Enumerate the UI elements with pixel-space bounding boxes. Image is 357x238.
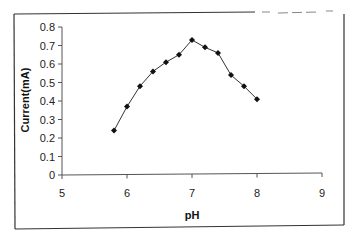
x-tick-label: 5 bbox=[59, 187, 65, 199]
y-tick-label: 0.2 bbox=[40, 132, 55, 144]
y-tick-label: 0.4 bbox=[40, 95, 55, 107]
data-point-diamond-marker bbox=[111, 128, 117, 134]
y-tick-label: 0.1 bbox=[40, 151, 55, 163]
data-series bbox=[111, 37, 260, 134]
y-tick-label: 0.5 bbox=[40, 77, 55, 89]
y-tick-label: 0.6 bbox=[40, 58, 55, 70]
y-axis-title: Current(mA) bbox=[19, 67, 31, 132]
y-tick-label: 0.8 bbox=[40, 21, 55, 33]
y-axis: 00.10.20.30.40.50.60.70.8 bbox=[40, 21, 62, 181]
x-tick-label: 7 bbox=[189, 187, 195, 199]
x-tick-label: 9 bbox=[319, 187, 325, 199]
x-axis-title: pH bbox=[185, 209, 200, 221]
series-line bbox=[114, 40, 257, 131]
data-point-diamond-marker bbox=[202, 44, 208, 50]
x-tick-label: 8 bbox=[254, 187, 260, 199]
data-point-diamond-marker bbox=[124, 104, 130, 110]
chart-canvas: 00.10.20.30.40.50.60.70.8 56789 pH Curre… bbox=[0, 0, 357, 238]
x-axis: 56789 bbox=[59, 173, 325, 199]
x-tick-label: 6 bbox=[124, 187, 130, 199]
y-tick-label: 0.7 bbox=[40, 40, 55, 52]
y-tick-label: 0.3 bbox=[40, 114, 55, 126]
y-tick-label: 0 bbox=[49, 169, 55, 181]
data-point-diamond-marker bbox=[215, 50, 221, 56]
